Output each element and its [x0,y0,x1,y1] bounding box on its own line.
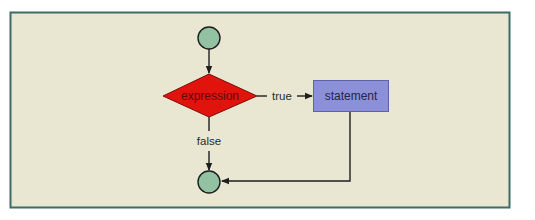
decision-node-label: expression [181,89,239,103]
diagram-frame [11,13,510,208]
flowchart-diagram: true false expression statement [0,0,535,220]
process-node-label: statement [325,89,378,103]
end-node-circle [198,171,220,193]
edge-label-false: false [197,135,221,147]
edge-label-true: true [272,90,292,102]
start-node-circle [198,27,220,49]
